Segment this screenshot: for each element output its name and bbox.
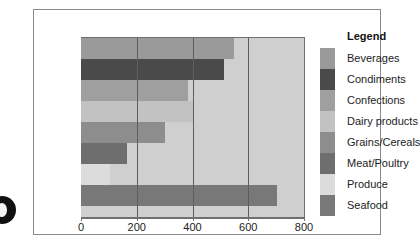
gridline-600 <box>248 38 249 218</box>
chart-frame: 0200400600800 Legend BeveragesCondiments… <box>33 9 381 235</box>
legend-label-grains-cereals: Grains/Cereals <box>347 132 420 153</box>
legend-swatch-beverages <box>320 48 335 69</box>
bar-produce <box>81 164 110 185</box>
plot-area <box>81 37 305 219</box>
legend-label-seafood: Seafood <box>347 195 420 216</box>
legend-label-list: BeveragesCondimentsConfectionsDairy prod… <box>347 48 420 216</box>
legend-label-dairy-products: Dairy products <box>347 111 420 132</box>
legend-label-produce: Produce <box>347 174 420 195</box>
legend-label-condiments: Condiments <box>347 69 420 90</box>
gridline-200 <box>137 38 138 218</box>
x-tick-label-600: 600 <box>239 221 257 233</box>
x-tick-label-200: 200 <box>128 221 146 233</box>
x-tick-label-400: 400 <box>183 221 201 233</box>
legend-swatch-seafood <box>320 195 335 216</box>
bar-meat-poultry <box>81 143 127 164</box>
legend-swatch-confections <box>320 90 335 111</box>
bar-confections <box>81 80 188 101</box>
bar-grains-cereals <box>81 122 165 143</box>
legend-label-meat-poultry: Meat/Poultry <box>347 153 420 174</box>
legend-swatch-produce <box>320 174 335 195</box>
x-tick-label-800: 800 <box>295 221 313 233</box>
x-tick-label-0: 0 <box>78 221 84 233</box>
gridline-400 <box>193 38 194 218</box>
legend-swatch-condiments <box>320 69 335 90</box>
bar-beverages <box>81 38 234 59</box>
legend-title: Legend <box>347 30 386 42</box>
legend-swatch-grains-cereals <box>320 132 335 153</box>
legend-swatch-dairy-products <box>320 111 335 132</box>
legend-label-beverages: Beverages <box>347 48 420 69</box>
bar-condiments <box>81 59 224 80</box>
legend-swatch-list <box>320 48 335 216</box>
legend-label-confections: Confections <box>347 90 420 111</box>
legend-swatch-meat-poultry <box>320 153 335 174</box>
plot-inner <box>81 38 304 218</box>
watermark-logo-icon <box>0 196 16 224</box>
